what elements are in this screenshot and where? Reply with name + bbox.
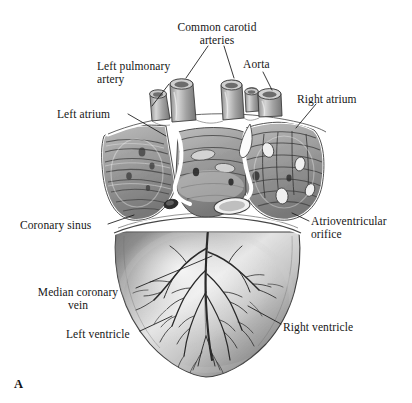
- label-coronary-sinus: Coronary sinus: [20, 219, 110, 232]
- accessory-vessel-stump: [245, 88, 259, 112]
- label-median-coronary-vein: Median coronary vein: [25, 286, 131, 311]
- leader-aorta: [263, 72, 272, 90]
- common-carotid-artery-stump-left: [170, 79, 196, 122]
- common-carotid-artery-stump-right: [221, 80, 244, 120]
- label-right-atrium: Right atrium: [297, 93, 387, 106]
- label-left-pulmonary-artery: Left pulmonary artery: [97, 60, 201, 85]
- label-atrioventricular-orifice: Atrioventricular orifice: [311, 215, 412, 240]
- leader-common-carotid-right: [224, 46, 234, 78]
- label-common-carotid-arteries: Common carotid arteries: [167, 21, 267, 46]
- right-atrium-structure: [243, 122, 324, 220]
- label-right-ventricle: Right ventricle: [283, 321, 375, 334]
- label-aorta: Aorta: [243, 58, 293, 71]
- label-left-atrium: Left atrium: [57, 108, 137, 121]
- figure-letter: A: [14, 377, 23, 392]
- heart-anatomy-illustration: [0, 0, 412, 403]
- label-left-ventricle: Left ventricle: [66, 328, 148, 341]
- aorta-stump: [258, 89, 282, 117]
